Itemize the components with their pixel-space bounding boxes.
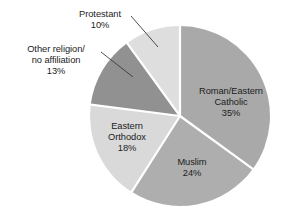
pie-label-catholic-line-1: Roman/Eastern [179, 86, 283, 97]
pie-label-other-religion: Other religion/ no affiliation 13% [2, 44, 110, 78]
pie-label-protestant: Protestant 10% [57, 9, 143, 31]
pie-label-other-religion-line-2: no affiliation [2, 55, 110, 66]
pie-label-muslim-value: 24% [155, 168, 229, 179]
pie-label-orthodox: Eastern Orthodox 18% [86, 121, 168, 155]
pie-chart: Protestant 10% Other religion/ no affili… [0, 0, 285, 219]
pie-label-catholic-line-2: Catholic [179, 97, 283, 108]
pie-label-muslim-line-1: Muslim [155, 157, 229, 168]
pie-label-protestant-value: 10% [57, 20, 143, 31]
pie-label-orthodox-value: 18% [86, 143, 168, 154]
pie-label-other-religion-value: 13% [2, 66, 110, 77]
pie-label-orthodox-line-1: Eastern [86, 121, 168, 132]
pie-label-muslim: Muslim 24% [155, 157, 229, 179]
pie-label-orthodox-line-2: Orthodox [86, 132, 168, 143]
pie-label-catholic-value: 35% [179, 108, 283, 119]
pie-label-other-religion-line-1: Other religion/ [2, 44, 110, 55]
pie-label-protestant-line-1: Protestant [57, 9, 143, 20]
pie-label-catholic: Roman/Eastern Catholic 35% [179, 86, 283, 120]
